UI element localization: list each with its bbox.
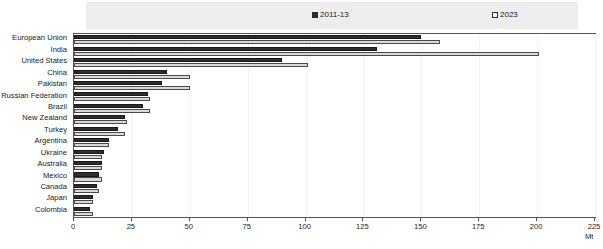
bar-group	[74, 206, 595, 218]
bar-2011-13	[74, 161, 102, 165]
y-axis-tick-label: India	[51, 46, 67, 54]
bar-group	[74, 138, 595, 150]
x-axis-tick-label: 75	[242, 222, 250, 231]
bar-2023	[74, 132, 125, 136]
bars-container	[74, 34, 595, 217]
y-axis-labels: European UnionIndiaUnited StatesChinaPak…	[0, 33, 70, 218]
bar-2023	[74, 63, 308, 67]
bar-group	[74, 195, 595, 207]
x-axis-tick-label: 25	[127, 222, 135, 231]
y-axis-tick-label: United States	[21, 57, 67, 65]
bar-2011-13	[74, 35, 421, 39]
y-axis-tick-label: Mexico	[43, 172, 67, 180]
y-axis-tick-label: Colombia	[35, 206, 67, 214]
gridline	[595, 34, 596, 217]
x-axis-tick-label: 50	[185, 222, 193, 231]
bar-2011-13	[74, 138, 109, 142]
x-axis-tick-label: 150	[414, 222, 427, 231]
plot-area	[73, 33, 596, 218]
bar-2023	[74, 86, 190, 90]
x-axis-tick	[189, 218, 190, 221]
bar-2023	[74, 75, 190, 79]
y-axis-tick-label: China	[47, 69, 67, 77]
bar-2011-13	[74, 70, 167, 74]
y-axis-tick-label: Canada	[40, 183, 67, 191]
bar-2023	[74, 143, 109, 147]
x-axis-tick	[536, 218, 537, 221]
bar-2023	[74, 52, 539, 56]
bar-2011-13	[74, 172, 99, 176]
legend-item-2023[interactable]: 2023	[492, 10, 518, 20]
bar-2011-13	[74, 127, 118, 131]
bar-2011-13	[74, 195, 93, 199]
y-axis-tick-label: Russian Federation	[1, 92, 67, 100]
bar-group	[74, 92, 595, 104]
bar-2023	[74, 97, 150, 101]
y-axis-tick-label: Pakistan	[38, 80, 67, 88]
x-axis-unit-label: Mt	[585, 232, 593, 241]
x-axis-tick-label: 100	[298, 222, 311, 231]
legend-swatch-icon-2023	[492, 12, 498, 18]
chart-legend: 2011-13 2023	[86, 2, 578, 29]
bar-2011-13	[74, 184, 97, 188]
bar-2011-13	[74, 207, 90, 211]
bar-2023	[74, 177, 102, 181]
y-axis-tick-label: Brazil	[48, 103, 67, 111]
bar-group	[74, 46, 595, 58]
y-axis-tick-label: New Zealand	[22, 114, 67, 122]
x-axis-tick-label: 225	[588, 222, 601, 231]
bar-2023	[74, 120, 127, 124]
legend-label-2023: 2023	[500, 10, 518, 20]
bar-2023	[74, 200, 93, 204]
legend-item-2011-13[interactable]: 2011-13	[312, 10, 349, 20]
y-axis-tick-label: European Union	[12, 34, 67, 42]
y-axis-tick-label: Japan	[46, 194, 67, 202]
bar-2011-13	[74, 92, 148, 96]
bar-group	[74, 69, 595, 81]
x-axis-tick-label: 125	[356, 222, 369, 231]
bar-2023	[74, 166, 102, 170]
legend-label-2011-13: 2011-13	[320, 10, 349, 20]
bar-chart: 2011-13 2023 European UnionIndiaUnited S…	[0, 0, 603, 249]
x-axis-tick	[73, 218, 74, 221]
x-axis-tick-label: 0	[71, 222, 75, 231]
bar-2011-13	[74, 47, 377, 51]
bar-2023	[74, 40, 440, 44]
bar-2011-13	[74, 115, 125, 119]
bar-2011-13	[74, 104, 143, 108]
x-axis: 0255075100125150175200225	[73, 218, 596, 238]
bar-group	[74, 183, 595, 195]
bar-group	[74, 126, 595, 138]
x-axis-tick	[478, 218, 479, 221]
bar-2023	[74, 155, 102, 159]
bar-group	[74, 103, 595, 115]
bar-group	[74, 160, 595, 172]
x-axis-tick	[247, 218, 248, 221]
x-axis-tick	[594, 218, 595, 221]
bar-2023	[74, 189, 99, 193]
y-axis-tick-label: Australia	[37, 160, 67, 168]
bar-2011-13	[74, 150, 104, 154]
bar-2011-13	[74, 81, 162, 85]
bar-2023	[74, 212, 93, 216]
x-axis-tick	[305, 218, 306, 221]
y-axis-tick-label: Turkey	[44, 126, 67, 134]
y-axis-tick-label: Argentina	[34, 137, 67, 145]
x-axis-tick	[362, 218, 363, 221]
bar-group	[74, 35, 595, 47]
bar-group	[74, 149, 595, 161]
legend-swatch-icon-2011-13	[312, 12, 318, 18]
bar-group	[74, 172, 595, 184]
bar-group	[74, 115, 595, 127]
bar-group	[74, 80, 595, 92]
x-axis-tick	[420, 218, 421, 221]
y-axis-tick-label: Ukraine	[41, 149, 67, 157]
bar-2023	[74, 109, 150, 113]
x-axis-tick-label: 175	[472, 222, 485, 231]
bar-2011-13	[74, 58, 282, 62]
x-axis-tick-label: 200	[530, 222, 543, 231]
bar-group	[74, 57, 595, 69]
x-axis-tick	[131, 218, 132, 221]
